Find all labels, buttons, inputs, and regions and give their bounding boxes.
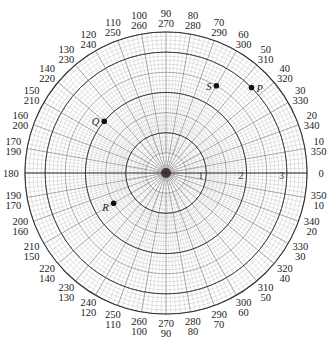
svg-text:310: 310: [258, 54, 274, 65]
svg-text:340: 340: [304, 120, 320, 131]
angle-label-260: 260100: [131, 316, 147, 337]
angle-label-80: 80280: [185, 10, 201, 31]
svg-text:200: 200: [12, 120, 28, 131]
angle-label-70: 70290: [211, 17, 227, 38]
svg-text:210: 210: [24, 95, 40, 106]
svg-text:20: 20: [306, 226, 317, 237]
svg-text:R: R: [101, 202, 109, 213]
svg-text:190: 190: [5, 146, 21, 157]
svg-text:290: 290: [211, 27, 227, 38]
svg-text:250: 250: [105, 27, 121, 38]
angle-label-210: 210150: [24, 241, 40, 262]
angle-label-350: 35010: [311, 190, 327, 211]
svg-text:100: 100: [131, 326, 147, 337]
angle-label-160: 160200: [12, 110, 28, 131]
angle-label-140: 140220: [39, 63, 55, 84]
svg-text:130: 130: [58, 292, 74, 303]
svg-text:30: 30: [295, 251, 306, 262]
svg-text:10: 10: [313, 200, 324, 211]
angle-label-200: 200160: [12, 216, 28, 237]
angle-label-180: 180: [3, 168, 19, 179]
angle-label-10: 10350: [311, 136, 327, 157]
svg-text:Q: Q: [92, 116, 100, 127]
svg-text:170: 170: [5, 200, 21, 211]
svg-text:270: 270: [158, 18, 174, 29]
svg-text:320: 320: [277, 73, 293, 84]
angle-label-60: 60300: [236, 29, 252, 50]
radial-label-1: 1: [198, 170, 203, 181]
svg-text:240: 240: [81, 39, 97, 50]
angle-label-20: 20340: [304, 110, 320, 131]
angle-label-320: 32040: [277, 263, 293, 284]
radial-label-2: 2: [239, 170, 244, 181]
angle-label-330: 33030: [292, 241, 308, 262]
svg-text:180: 180: [3, 168, 19, 179]
angle-label-0: 0: [318, 168, 323, 179]
svg-text:70: 70: [214, 319, 225, 330]
angle-label-230: 230130: [58, 282, 74, 303]
svg-text:60: 60: [238, 307, 249, 318]
svg-text:120: 120: [81, 307, 97, 318]
svg-text:260: 260: [131, 20, 147, 31]
svg-text:220: 220: [39, 73, 55, 84]
svg-text:300: 300: [236, 39, 252, 50]
angle-label-280: 28080: [185, 316, 201, 337]
angle-label-220: 220140: [39, 263, 55, 284]
point-S: S: [206, 81, 219, 92]
angle-label-340: 34020: [304, 216, 320, 237]
svg-text:350: 350: [311, 146, 327, 157]
angle-label-130: 130230: [58, 44, 74, 65]
svg-text:50: 50: [260, 292, 271, 303]
svg-text:80: 80: [188, 326, 199, 337]
polar-graph: 0103502034030330403205031060300702908028…: [0, 0, 333, 346]
svg-text:0: 0: [318, 168, 323, 179]
angle-label-240: 240120: [81, 297, 97, 318]
svg-text:160: 160: [12, 226, 28, 237]
svg-text:330: 330: [292, 95, 308, 106]
point-P: P: [249, 83, 264, 94]
svg-text:150: 150: [24, 251, 40, 262]
radial-label-3: 3: [279, 170, 284, 181]
angle-label-300: 30060: [236, 297, 252, 318]
svg-text:280: 280: [185, 20, 201, 31]
angle-label-50: 50310: [258, 44, 274, 65]
angle-label-250: 250110: [105, 309, 121, 330]
angle-label-170: 170190: [5, 136, 21, 157]
svg-text:P: P: [255, 83, 263, 94]
svg-text:40: 40: [280, 273, 291, 284]
angle-label-150: 150210: [24, 85, 40, 106]
angle-label-290: 29070: [211, 309, 227, 330]
angle-label-30: 30330: [292, 85, 308, 106]
angle-label-110: 110250: [105, 17, 121, 38]
angle-label-90: 90270: [158, 8, 174, 29]
angle-label-120: 120240: [81, 29, 97, 50]
svg-text:90: 90: [161, 328, 172, 339]
svg-text:140: 140: [39, 273, 55, 284]
angle-label-190: 190170: [5, 190, 21, 211]
angle-label-310: 31050: [258, 282, 274, 303]
angle-label-40: 40320: [277, 63, 293, 84]
angle-label-270: 27090: [158, 318, 174, 339]
svg-text:S: S: [206, 81, 212, 92]
svg-text:110: 110: [105, 319, 120, 330]
svg-text:230: 230: [58, 54, 74, 65]
angle-label-100: 100260: [131, 10, 147, 31]
